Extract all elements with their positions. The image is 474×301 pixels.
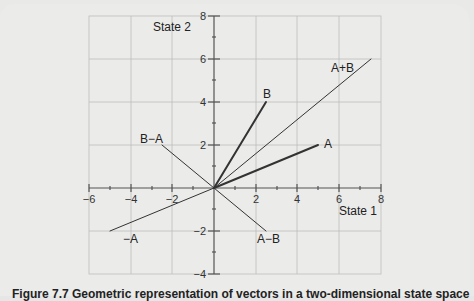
y-tick-label: 8 <box>200 10 206 22</box>
x-tick-label: −6 <box>83 193 96 205</box>
x-tick-label: −4 <box>125 193 138 205</box>
y-tick-label: 4 <box>200 96 206 108</box>
x-tick-label: −2 <box>166 193 179 205</box>
y-tick-label: −4 <box>193 268 206 280</box>
y-axis-title: State 2 <box>153 20 191 34</box>
label-neg-a: −A <box>123 232 138 246</box>
x-tick-label: 4 <box>294 193 300 205</box>
y-tick-label: −2 <box>193 225 206 237</box>
label-a: A <box>324 137 332 151</box>
label-b: B <box>263 87 271 101</box>
vector-a-plus-b <box>214 59 371 188</box>
y-tick-label: 6 <box>200 53 206 65</box>
figure-caption: Figure 7.7 Geometric representation of v… <box>12 287 469 301</box>
vector-b-minus-a <box>162 145 214 188</box>
x-tick-label: 2 <box>253 193 259 205</box>
label-a-minus-b: A−B <box>257 232 280 246</box>
x-axis-title: State 1 <box>339 204 377 218</box>
label-b-minus-a: B−A <box>140 132 163 146</box>
label-a-plus-b: A+B <box>331 61 354 75</box>
y-tick-label: 2 <box>200 139 206 151</box>
vector-a <box>214 145 318 188</box>
x-tick-label: 8 <box>378 193 384 205</box>
